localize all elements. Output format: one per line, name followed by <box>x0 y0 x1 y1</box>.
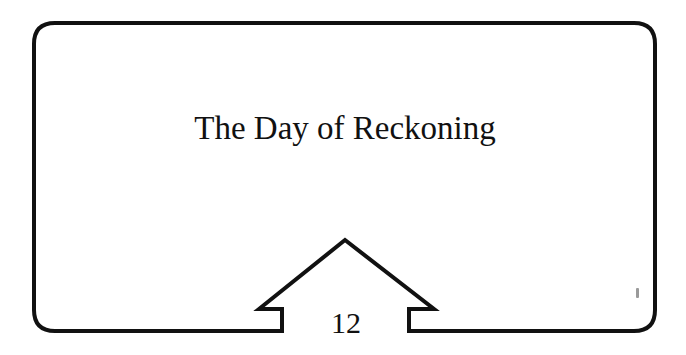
scan-mark <box>636 288 639 298</box>
card-number: 12 <box>300 306 392 340</box>
card-title: The Day of Reckoning <box>0 110 686 147</box>
card-outline-with-house-notch <box>34 23 655 331</box>
card-frame <box>0 0 686 355</box>
